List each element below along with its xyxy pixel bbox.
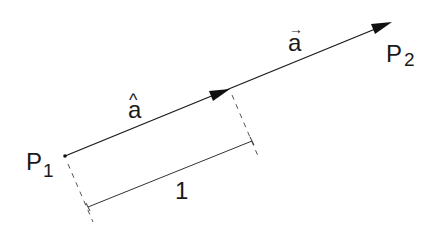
dimension-label: 1: [175, 177, 188, 204]
vector-a-arrowhead-icon: [371, 22, 392, 34]
unit-vector-diagram: P 1 P 2 ^ a → a 1: [0, 0, 440, 230]
unit-vector-arrowhead-icon: [209, 89, 230, 101]
vector-a-label: a: [288, 29, 302, 56]
point-p1-subscript: 1: [43, 160, 54, 181]
dimension-tick-right: [250, 137, 254, 145]
point-p1-dot: [63, 154, 67, 158]
extension-line-left: [68, 164, 93, 222]
point-p2-label: P: [386, 40, 402, 67]
dimension-tick-left: [86, 203, 90, 211]
point-p2-subscript: 2: [404, 49, 415, 70]
point-p1-label: P: [26, 148, 42, 175]
unit-vector-label: a: [128, 96, 142, 123]
dimension-line: [88, 141, 252, 207]
extension-line-right: [232, 95, 258, 156]
